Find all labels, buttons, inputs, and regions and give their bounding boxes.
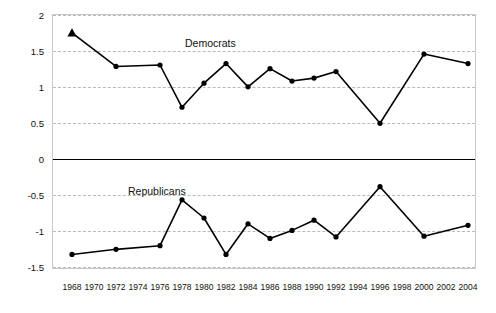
chart-container: 2 1.5 1 0.5 0 -0.5 -1 -1.5 1968 1970 197…	[0, 0, 496, 313]
democrats-annotation: Democrats	[185, 38, 236, 49]
series-overlay	[0, 0, 496, 313]
republicans-annotation: Republicans	[128, 186, 186, 197]
series-democrats-line	[72, 33, 468, 123]
